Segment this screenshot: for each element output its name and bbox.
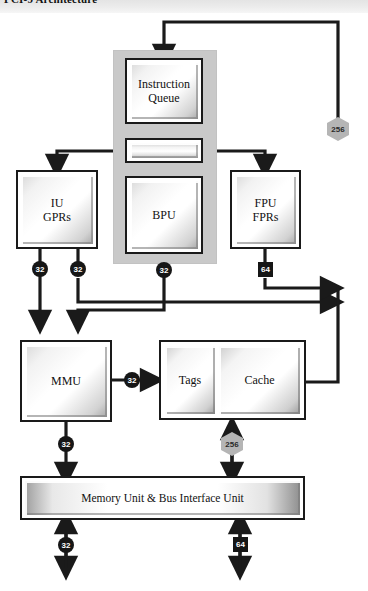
block-label: Tags (179, 373, 202, 388)
badge-bus-32-mmu-cache: 32 (124, 372, 140, 388)
block-fpu-fprs[interactable]: FPU FPRs (230, 170, 301, 249)
badge-bus-32-iu-right: 32 (70, 261, 86, 277)
block-mmu[interactable]: MMU (20, 340, 112, 422)
block-tags[interactable]: Tags (165, 346, 215, 414)
block-label: Instruction Queue (138, 77, 190, 105)
badge-bus-64-memory: 64 (233, 537, 248, 552)
block-label: FPU FPRs (252, 196, 278, 224)
block-cache[interactable]: Cache (219, 346, 300, 414)
block-dispatch-bar[interactable] (125, 138, 203, 163)
badge-bus-32-bpu: 32 (156, 262, 172, 278)
block-label: Memory Unit & Bus Interface Unit (81, 491, 244, 505)
block-cache-unit[interactable]: Tags Cache (159, 340, 306, 420)
block-label: Cache (245, 373, 275, 388)
block-label: IU GPRs (43, 196, 71, 224)
badge-bus-32-iu-left: 32 (32, 261, 48, 277)
block-bpu[interactable]: BPU (125, 176, 203, 254)
block-face (130, 143, 198, 158)
block-instruction-queue[interactable]: Instruction Queue (125, 58, 203, 124)
badge-bus-32-mmu-down: 32 (58, 436, 74, 452)
badge-bus-32-memory: 32 (58, 537, 74, 553)
block-memory-unit[interactable]: Memory Unit & Bus Interface Unit (20, 476, 305, 520)
block-label: MMU (51, 374, 81, 388)
block-iu-gprs[interactable]: IU GPRs (16, 170, 98, 249)
badge-bus-64-fpu: 64 (258, 262, 273, 277)
diagram-canvas: PCI-9 Architecture (0, 0, 368, 591)
block-label: BPU (152, 208, 175, 222)
